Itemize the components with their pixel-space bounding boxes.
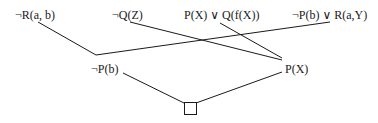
edge-not-pb-to-empty xyxy=(123,73,184,103)
edge-not-q-to-px xyxy=(130,22,282,60)
edge-not-r-to-not-pb xyxy=(38,22,96,55)
clause-not-r-a-b: ¬R(a, b) xyxy=(15,8,55,22)
resolution-tree-diagram: ¬R(a, b) ¬Q(Z) P(X) ∨ Q(f(X)) ¬P(b) ∨ R(… xyxy=(0,0,378,123)
clause-not-q-z: ¬Q(Z) xyxy=(112,8,143,22)
edge-px-to-empty xyxy=(196,72,282,103)
resolvent-not-pb: ¬P(b) xyxy=(91,62,118,76)
resolvent-px: P(X) xyxy=(285,62,308,76)
clause-px-or-qfx: P(X) ∨ Q(f(X)) xyxy=(184,8,259,22)
edge-clause4-to-not-pb xyxy=(96,22,330,55)
empty-clause-box-icon xyxy=(184,102,197,115)
clause-not-pb-or-ray: ¬P(b) ∨ R(a,Y) xyxy=(292,8,367,22)
